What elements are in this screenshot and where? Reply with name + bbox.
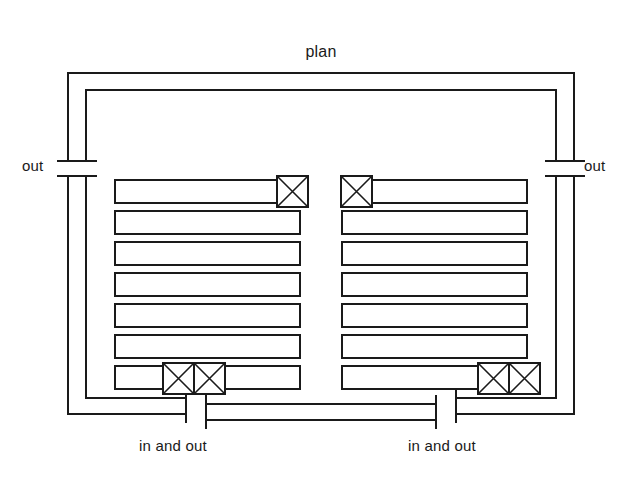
right-pipe-row-5: [342, 304, 527, 327]
right-bank-pipe-rows: [342, 180, 527, 389]
left-pipe-row-6: [115, 335, 300, 358]
label-out-left: out: [22, 158, 43, 173]
right-pipe-row-3: [342, 242, 527, 265]
label-out-right: out: [584, 158, 605, 173]
top-duct-outer-wall: [68, 73, 574, 160]
valve-box-right-row1: [341, 176, 372, 207]
left-pipe-row-1: [115, 180, 300, 203]
left-pipe-row-5: [115, 304, 300, 327]
valve-box-pair-right-row7: [478, 363, 540, 394]
bottom-center-duct: [206, 396, 436, 428]
left-bank-pipe-rows: [115, 180, 300, 389]
right-pipe-row-2: [342, 211, 527, 234]
valve-box-pair-left-row7: [163, 363, 225, 394]
piping-plan-drawing: [0, 0, 642, 494]
right-pipe-row-6: [342, 335, 527, 358]
top-duct-inner-wall: [86, 90, 556, 160]
left-pipe-row-2: [115, 211, 300, 234]
left-pipe-row-3: [115, 242, 300, 265]
top-header-duct: [58, 73, 584, 161]
diagram-title: plan: [0, 44, 642, 60]
valve-box-left-row1: [277, 176, 308, 207]
label-in-and-out-right: in and out: [408, 438, 476, 453]
right-pipe-row-4: [342, 273, 527, 296]
left-pipe-row-4: [115, 273, 300, 296]
label-in-and-out-left: in and out: [139, 438, 207, 453]
diagram-canvas: plan out out in and out in and out: [0, 0, 642, 494]
